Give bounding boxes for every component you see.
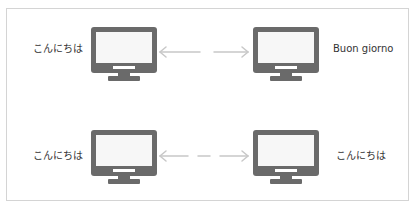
monitor-icon [91, 27, 157, 82]
bidirectional-arrow-row1 [158, 45, 250, 59]
row1-left-label: こんにちは [33, 43, 83, 55]
diagram-frame [6, 8, 409, 201]
bidirectional-arrow-row2 [158, 149, 250, 163]
row1-right-label: Buon giorno [333, 43, 393, 55]
row2-left-label: こんにちは [33, 150, 83, 162]
row2-right-label: こんにちは [336, 150, 386, 162]
monitor-icon [253, 130, 319, 185]
monitor-icon [91, 130, 157, 185]
monitor-icon [253, 27, 319, 82]
